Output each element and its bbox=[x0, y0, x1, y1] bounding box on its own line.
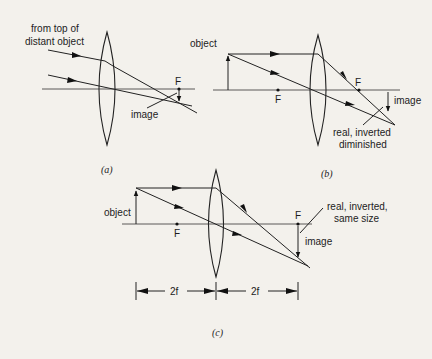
panel-caption: (b) bbox=[321, 168, 333, 180]
focal-point-right-dot bbox=[357, 88, 360, 91]
ray-direction-arrow bbox=[345, 101, 355, 106]
source-label-line1: from top of bbox=[31, 23, 79, 34]
distance-dimension: 2f 2f bbox=[136, 282, 298, 300]
image-leader-line bbox=[147, 93, 177, 108]
distance-left-label: 2f bbox=[170, 286, 179, 297]
description-leader-line bbox=[363, 107, 383, 125]
lens-ray-diagram: F image from top of distant object (a) o… bbox=[0, 0, 432, 359]
ray-2 bbox=[48, 75, 192, 106]
focal-point-left-dot bbox=[276, 88, 279, 91]
panel-caption: (c) bbox=[212, 327, 224, 339]
ray-direction-arrow bbox=[72, 52, 81, 58]
ray-direction-arrow bbox=[270, 51, 280, 57]
focal-point-left-label: F bbox=[174, 228, 180, 239]
focal-point-left-label: F bbox=[275, 94, 281, 105]
image-label: image bbox=[131, 109, 159, 120]
description-line2: diminished bbox=[339, 139, 387, 150]
panel-a: F image from top of distant object (a) bbox=[25, 23, 197, 176]
object-label: object bbox=[190, 38, 217, 49]
ray-direction-arrow bbox=[270, 70, 280, 75]
focal-point-right-label: F bbox=[295, 210, 301, 221]
focal-point-right-label: F bbox=[355, 77, 361, 88]
description-line2: same size bbox=[334, 213, 379, 224]
panel-c: object F F image real, inverted, same si… bbox=[104, 170, 388, 339]
description-line1: real, inverted bbox=[333, 127, 391, 138]
convex-lens bbox=[209, 170, 224, 277]
image-label: image bbox=[394, 95, 422, 106]
panel-b: object F F image real, inverted diminish… bbox=[190, 35, 422, 180]
focal-point-label: F bbox=[175, 76, 181, 87]
panel-caption: (a) bbox=[101, 164, 113, 176]
ray-direction-arrow bbox=[172, 185, 182, 191]
distance-right-label: 2f bbox=[251, 286, 260, 297]
source-label-line2: distant object bbox=[25, 36, 84, 47]
object-label: object bbox=[104, 207, 131, 218]
ray-direction-arrow bbox=[67, 77, 77, 83]
description-line1: real, inverted, bbox=[327, 201, 388, 212]
focal-point-left-dot bbox=[175, 222, 178, 225]
description-leader-line bbox=[300, 208, 323, 233]
ray-direction-arrow bbox=[174, 204, 184, 209]
focal-point-right-dot bbox=[296, 222, 299, 225]
image-label: image bbox=[305, 236, 333, 247]
